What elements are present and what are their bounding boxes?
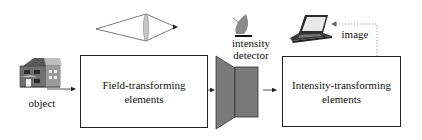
field-transforming-label-line1: Field-transforming — [102, 78, 185, 92]
intensity-transforming-box: Intensity-transforming elements — [282, 56, 401, 127]
intensity-transforming-label-line2: elements — [292, 92, 391, 106]
intensity-transforming-label-line1: Intensity-transforming — [292, 78, 391, 92]
intensity-detector-icon — [216, 56, 258, 129]
satellite-dish-icon — [233, 14, 252, 37]
lens-ray-diagram-icon — [96, 14, 178, 41]
detector-label-line1: intensity — [224, 37, 278, 49]
field-transforming-box: Field-transforming elements — [80, 55, 208, 128]
detector-label: intensity detector — [224, 37, 278, 61]
laptop-icon — [290, 15, 332, 43]
detector-label-line2: detector — [224, 49, 278, 61]
field-transforming-label-line2: elements — [102, 92, 185, 106]
house-icon — [20, 58, 62, 87]
object-label: object — [22, 97, 62, 109]
image-label: image — [338, 28, 372, 40]
